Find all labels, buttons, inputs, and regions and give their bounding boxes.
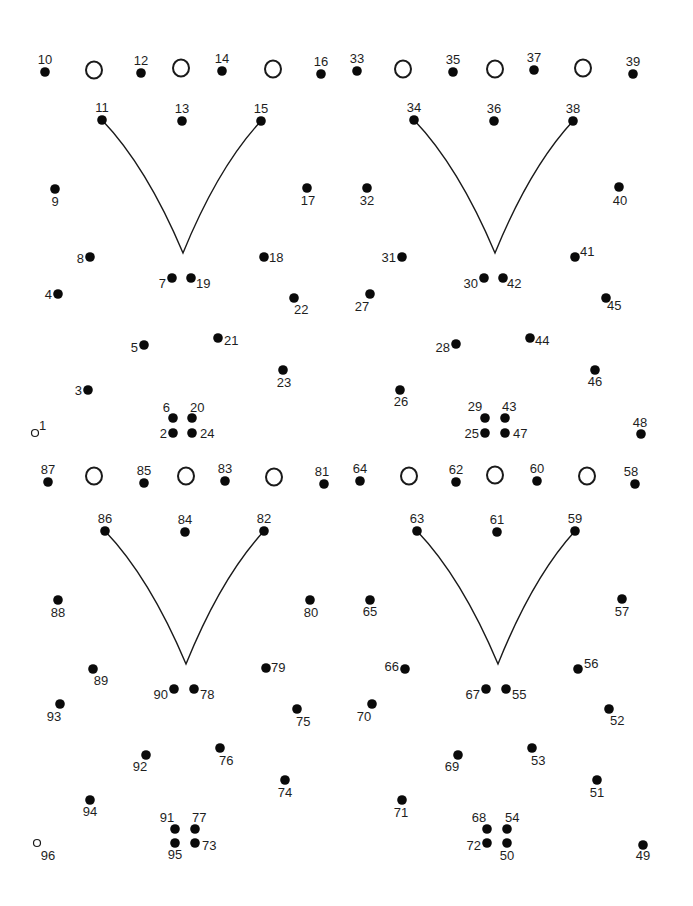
- dot-icon[interactable]: [139, 478, 149, 488]
- numbered-dot[interactable]: 90: [154, 684, 179, 702]
- numbered-dot[interactable]: 71: [394, 795, 408, 820]
- numbered-dot[interactable]: 33: [350, 51, 364, 76]
- numbered-dot[interactable]: 23: [277, 365, 291, 390]
- dot-icon[interactable]: [259, 252, 269, 262]
- dot-icon[interactable]: [592, 775, 602, 785]
- numbered-dot[interactable]: 80: [304, 595, 318, 620]
- dot-icon[interactable]: [217, 66, 227, 76]
- dot-icon[interactable]: [305, 595, 315, 605]
- numbered-dot[interactable]: 93: [47, 699, 65, 724]
- numbered-dot[interactable]: 61: [490, 512, 504, 537]
- numbered-dot[interactable]: 56: [573, 656, 598, 674]
- dot-icon[interactable]: [53, 595, 63, 605]
- dot-icon[interactable]: [177, 116, 187, 126]
- dot-icon[interactable]: [397, 252, 407, 262]
- dot-icon[interactable]: [500, 413, 510, 423]
- dot-icon[interactable]: [367, 699, 377, 709]
- numbered-dot[interactable]: 68: [472, 810, 492, 834]
- numbered-dot[interactable]: 76: [215, 743, 233, 768]
- numbered-dot[interactable]: 28: [436, 339, 461, 355]
- numbered-dot[interactable]: 3: [75, 383, 93, 398]
- dot-icon[interactable]: [53, 289, 63, 299]
- numbered-dot[interactable]: 7: [159, 273, 177, 291]
- open-dot-icon[interactable]: [32, 430, 39, 437]
- numbered-dot[interactable]: 15: [254, 101, 268, 126]
- numbered-dot[interactable]: 94: [83, 795, 97, 819]
- dot-icon[interactable]: [451, 339, 461, 349]
- dot-icon[interactable]: [40, 67, 50, 77]
- numbered-dot[interactable]: 44: [525, 333, 549, 348]
- open-dot-icon[interactable]: [34, 840, 41, 847]
- numbered-dot[interactable]: 46: [588, 365, 602, 389]
- numbered-dot[interactable]: 37: [527, 50, 541, 75]
- numbered-dot[interactable]: 27: [355, 289, 375, 314]
- dot-icon[interactable]: [189, 684, 199, 694]
- dot-icon[interactable]: [479, 273, 489, 283]
- numbered-dot[interactable]: 5: [131, 340, 149, 355]
- dot-icon[interactable]: [529, 65, 539, 75]
- numbered-dot[interactable]: 41: [570, 244, 594, 262]
- numbered-dot[interactable]: 16: [314, 54, 328, 79]
- dot-icon[interactable]: [213, 333, 223, 343]
- numbered-dot[interactable]: 95: [168, 838, 182, 862]
- numbered-dot[interactable]: 43: [500, 399, 516, 423]
- numbered-dot[interactable]: 11: [95, 100, 109, 125]
- dot-icon[interactable]: [280, 775, 290, 785]
- dot-icon[interactable]: [573, 664, 583, 674]
- dot-icon[interactable]: [215, 743, 225, 753]
- numbered-dot[interactable]: 25: [465, 426, 490, 441]
- dot-icon[interactable]: [448, 67, 458, 77]
- numbered-dot[interactable]: 65: [363, 595, 377, 619]
- numbered-dot[interactable]: 73: [190, 838, 216, 853]
- numbered-dot[interactable]: 83: [218, 461, 232, 486]
- dot-icon[interactable]: [319, 479, 329, 489]
- numbered-dot[interactable]: 66: [385, 659, 410, 674]
- dot-icon[interactable]: [97, 115, 107, 125]
- dot-icon[interactable]: [136, 68, 146, 78]
- dot-icon[interactable]: [502, 838, 512, 848]
- numbered-dot[interactable]: 77: [190, 810, 206, 834]
- numbered-dot[interactable]: 8: [77, 251, 95, 266]
- numbered-dot[interactable]: 74: [278, 775, 292, 800]
- numbered-dot[interactable]: 58: [624, 464, 640, 489]
- numbered-dot[interactable]: 92: [133, 750, 151, 774]
- numbered-dot[interactable]: 57: [615, 594, 629, 619]
- dot-icon[interactable]: [256, 116, 266, 126]
- dot-icon[interactable]: [85, 252, 95, 262]
- dot-icon[interactable]: [451, 477, 461, 487]
- numbered-dot[interactable]: 72: [467, 838, 492, 853]
- dot-icon[interactable]: [316, 69, 326, 79]
- numbered-dot[interactable]: 22: [289, 293, 308, 317]
- numbered-dot[interactable]: 26: [394, 385, 408, 409]
- dot-icon[interactable]: [259, 526, 269, 536]
- dot-icon[interactable]: [180, 527, 190, 537]
- numbered-dot[interactable]: 38: [566, 101, 580, 126]
- dot-icon[interactable]: [139, 340, 149, 350]
- numbered-dot[interactable]: 42: [498, 273, 521, 291]
- dot-icon[interactable]: [628, 69, 638, 79]
- numbered-dot[interactable]: 85: [137, 463, 151, 488]
- numbered-dot[interactable]: 35: [446, 52, 460, 77]
- numbered-dot[interactable]: 50: [500, 838, 514, 863]
- dot-icon[interactable]: [482, 838, 492, 848]
- numbered-dot[interactable]: 47: [500, 426, 527, 441]
- dot-icon[interactable]: [570, 252, 580, 262]
- numbered-dot[interactable]: 59: [568, 511, 582, 536]
- numbered-dot[interactable]: 88: [51, 595, 65, 620]
- numbered-dot[interactable]: 45: [601, 293, 621, 313]
- dot-icon[interactable]: [168, 428, 178, 438]
- dot-icon[interactable]: [50, 184, 60, 194]
- numbered-dot[interactable]: 4: [45, 287, 63, 302]
- dot-icon[interactable]: [400, 664, 410, 674]
- dot-icon[interactable]: [500, 428, 510, 438]
- dot-icon[interactable]: [187, 428, 197, 438]
- dot-icon[interactable]: [480, 428, 490, 438]
- dot-icon[interactable]: [170, 824, 180, 834]
- dot-icon[interactable]: [167, 273, 177, 283]
- numbered-dot[interactable]: 21: [213, 333, 238, 348]
- dot-icon[interactable]: [186, 273, 196, 283]
- dot-icon[interactable]: [527, 743, 537, 753]
- numbered-dot[interactable]: 6: [163, 400, 178, 423]
- dot-icon[interactable]: [278, 365, 288, 375]
- numbered-dot[interactable]: 55: [501, 684, 526, 702]
